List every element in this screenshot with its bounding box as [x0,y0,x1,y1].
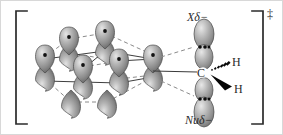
leaving-group-orbital [194,19,214,70]
lattice-down-lobes [36,37,163,118]
transition-state-marker: ‡ [267,8,273,20]
bracket-right [252,11,263,124]
orbital-lobe [98,90,117,118]
carbon-atom-label: C [197,67,205,79]
electron-dot [198,45,202,49]
leaving-group-label: Xδ− [187,11,208,23]
electron-dot [43,53,47,57]
dashed-bond-lower [161,81,194,96]
electron-dot [81,63,85,67]
nucleophile-label: Nuδ− [185,114,213,126]
orbital-transition-state-figure: Xδ− Nuδ− C H H ‡ [0,0,283,135]
electron-dot [117,57,121,61]
electron-dot [203,97,207,101]
electron-dot [198,97,202,101]
orbital-lobe [62,90,81,118]
hashed-wedge-bond [212,62,230,71]
orbital-lobe [36,45,55,73]
orbital-lobe [110,49,129,77]
dashed-bond-upper [161,47,194,57]
electron-dot [103,29,107,33]
bracket-left [16,11,27,124]
electron-dot [151,53,155,57]
electron-dot [208,98,211,101]
orbital-lobe [144,45,163,73]
electron-dot [203,45,207,49]
electron-dot [67,35,71,39]
hydrogen-label-upper: H [232,56,241,68]
electron-dot [208,46,211,49]
hydrogen-label-lower: H [234,83,243,95]
solid-wedge-bond [211,75,233,91]
